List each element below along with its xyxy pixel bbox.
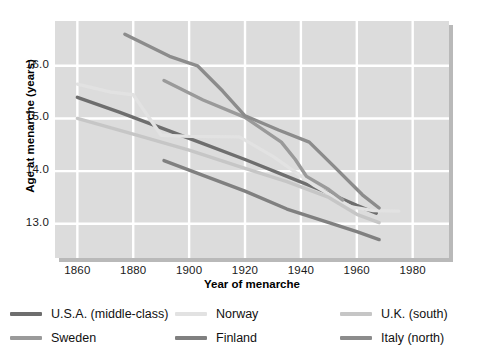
legend-item[interactable]: U.S.A. (middle-class) <box>10 302 175 326</box>
legend-item-label: U.S.A. (middle-class) <box>51 307 168 321</box>
menarche-age-line-chart: 13.014.015.016.0 18601880190019201940196… <box>0 0 480 358</box>
legend-item-label: Sweden <box>51 331 96 345</box>
legend-item[interactable]: U.K. (south) <box>340 302 480 326</box>
legend-item-label: Italy (north) <box>381 331 444 345</box>
plot-area <box>55 21 449 258</box>
x-tick-label: 1920 <box>215 264 275 276</box>
plot-canvas <box>55 21 449 258</box>
legend-item-label: Finland <box>216 331 257 345</box>
legend-color-swatch <box>10 336 42 340</box>
legend-color-swatch <box>340 336 372 340</box>
chart-legend: U.S.A. (middle-class)NorwayU.K. (south)S… <box>10 302 480 350</box>
legend-item[interactable]: Italy (north) <box>340 326 480 350</box>
series-line <box>77 84 398 211</box>
legend-item-label: U.K. (south) <box>381 307 448 321</box>
legend-color-swatch <box>10 312 42 316</box>
x-tick-label: 1940 <box>271 264 331 276</box>
x-axis-title: Year of menarche <box>55 278 449 290</box>
legend-item[interactable]: Finland <box>175 326 340 350</box>
legend-item[interactable]: Sweden <box>10 326 175 350</box>
legend-item-label: Norway <box>216 307 258 321</box>
x-tick-label: 1900 <box>159 264 219 276</box>
x-tick-label: 1980 <box>383 264 443 276</box>
legend-color-swatch <box>175 336 207 340</box>
x-tick-label: 1960 <box>327 264 387 276</box>
y-axis-title: Age at menarche (years) <box>24 16 36 236</box>
x-tick-label: 1880 <box>103 264 163 276</box>
x-tick-label: 1860 <box>47 264 107 276</box>
legend-item[interactable]: Norway <box>175 302 340 326</box>
legend-color-swatch <box>340 312 372 316</box>
legend-color-swatch <box>175 312 207 316</box>
